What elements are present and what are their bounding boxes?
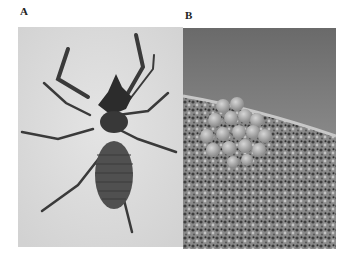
panel-b-label: B — [185, 9, 192, 21]
panel-a-label: A — [20, 5, 28, 17]
panel-a-photo — [18, 27, 183, 247]
egg-cluster-illustration — [183, 28, 336, 249]
arachnid-illustration — [18, 27, 183, 247]
panel-b-photo — [183, 28, 336, 249]
